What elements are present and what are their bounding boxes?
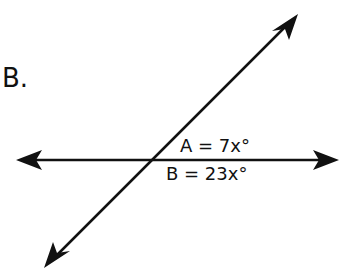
intersecting-lines-diagram — [0, 0, 357, 280]
transversal-line — [44, 14, 298, 268]
angle-a-label: A = 7x° — [180, 135, 250, 156]
angle-b-label: B = 23x° — [166, 163, 247, 184]
